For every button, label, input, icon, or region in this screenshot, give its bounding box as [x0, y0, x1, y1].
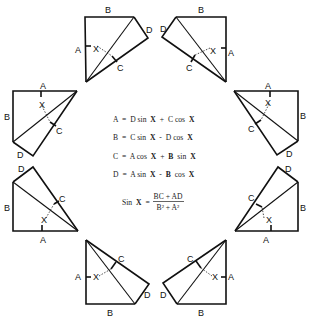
x-projection: [46, 204, 54, 218]
label-d: D: [18, 164, 25, 174]
label-x: X: [266, 215, 272, 225]
formula-a: A = D sin X + C cos X: [113, 115, 195, 124]
hypotenuse: [13, 91, 77, 142]
label-b: B: [198, 308, 204, 318]
figure-bottom-right: C X A D B: [160, 240, 234, 318]
label-a: A: [75, 272, 81, 282]
fraction-denominator: B² + A²: [157, 203, 180, 212]
c-perpendicular-tick: [196, 261, 201, 268]
label-x: X: [265, 98, 271, 108]
formula-c: C = A cos X + B sin X: [113, 152, 196, 161]
label-a: A: [265, 81, 271, 91]
label-a: A: [40, 235, 46, 245]
label-d: D: [144, 290, 151, 300]
outer-sides: [162, 17, 226, 82]
label-d: D: [160, 24, 167, 34]
label-b: B: [198, 5, 204, 15]
figure-left-lower: D C B X A: [4, 164, 78, 245]
label-d: D: [146, 25, 153, 35]
label-b: B: [300, 203, 306, 213]
label-x: X: [93, 272, 99, 282]
x-projection: [201, 268, 212, 276]
formula-d: D = A sin X - B cos X: [113, 170, 195, 179]
label-x: X: [39, 100, 45, 110]
label-a: A: [40, 81, 46, 91]
label-x: X: [212, 272, 218, 282]
label-b: B: [4, 112, 10, 122]
label-x: X: [93, 44, 99, 54]
label-c: C: [59, 194, 66, 204]
label-a: A: [228, 48, 234, 58]
c-perpendicular-tick: [111, 262, 116, 269]
label-c: C: [248, 124, 255, 134]
formula-block: A = D sin X + C cos X B = C sin X - D co…: [113, 115, 196, 212]
label-d: D: [285, 164, 292, 174]
figure-top-right: B D A X C: [160, 5, 234, 82]
figure-right-lower: D C B X A: [235, 164, 306, 245]
x-projection: [97, 46, 112, 56]
label-c: C: [117, 63, 124, 73]
label-b: B: [300, 111, 306, 121]
label-d: D: [160, 290, 167, 300]
label-b: B: [105, 5, 111, 15]
label-a: A: [263, 235, 269, 245]
label-c: C: [56, 126, 63, 136]
figure-left-upper: A X B C D: [4, 81, 77, 160]
label-x: X: [41, 215, 47, 225]
fraction-numerator: BC + AD: [154, 192, 183, 201]
figure-top-left: B D A X C: [75, 5, 153, 82]
figure-bottom-left: C A X D B: [75, 240, 151, 318]
label-a: A: [75, 45, 81, 55]
sin-x-formula: Sin X = BC + AD B² + A²: [122, 192, 184, 212]
label-b: B: [4, 203, 10, 213]
sin-x-lhs: Sin X =: [122, 198, 150, 207]
label-c: C: [248, 193, 255, 203]
formula-b: B = C sin X - D cos X: [113, 133, 193, 142]
label-a: A: [228, 272, 234, 282]
figure-right-upper: A X B C D: [234, 81, 306, 159]
label-b: B: [107, 308, 113, 318]
hypotenuse: [176, 17, 226, 82]
hypotenuse: [177, 240, 226, 304]
label-c: C: [186, 63, 193, 73]
label-d: D: [17, 150, 24, 160]
trig-identity-diagram: B D A X C B D A X C A X B C D: [0, 0, 309, 320]
c-perpendicular-tick: [255, 120, 261, 124]
label-c: C: [187, 254, 194, 264]
label-d: D: [286, 149, 293, 159]
label-c: C: [118, 254, 125, 264]
label-x: X: [210, 46, 216, 56]
c-perpendicular-tick: [256, 204, 262, 207]
